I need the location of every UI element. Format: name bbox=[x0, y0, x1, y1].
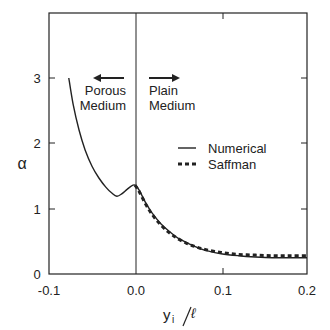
svg-text:i: i bbox=[172, 314, 174, 325]
legend-numerical: Numerical bbox=[208, 141, 267, 156]
y-tick-label-2: 2 bbox=[33, 136, 40, 151]
chart: 3 2 1 0 -0.1 0.0 0.1 0.2 α y i ℓ Porous … bbox=[0, 0, 330, 330]
plain-label-line1: Plain bbox=[149, 83, 178, 98]
plot-frame bbox=[49, 13, 307, 274]
y-tick-label-3: 3 bbox=[33, 71, 40, 86]
y-axis-label: α bbox=[17, 155, 26, 172]
x-tick-label-02: 0.2 bbox=[298, 283, 316, 298]
porous-arrow-icon bbox=[93, 74, 124, 82]
x-axis-label: y i ℓ bbox=[163, 305, 196, 326]
plain-arrow-icon bbox=[149, 74, 180, 82]
x-tick-label-01: 0.1 bbox=[214, 283, 232, 298]
svg-text:y: y bbox=[163, 306, 171, 323]
legend-saffman: Saffman bbox=[208, 157, 256, 172]
y-tick-label-0: 0 bbox=[33, 267, 40, 282]
series-saffman bbox=[135, 185, 307, 256]
svg-text:ℓ: ℓ bbox=[190, 305, 196, 321]
porous-label-line2: Medium bbox=[80, 98, 126, 113]
plain-label-line2: Medium bbox=[149, 98, 195, 113]
x-tick-label-00: 0.0 bbox=[127, 283, 145, 298]
x-tick-label-neg01: -0.1 bbox=[38, 283, 60, 298]
legend: Numerical Saffman bbox=[178, 141, 267, 172]
y-tick-label-1: 1 bbox=[33, 202, 40, 217]
porous-label-line1: Porous bbox=[85, 83, 127, 98]
